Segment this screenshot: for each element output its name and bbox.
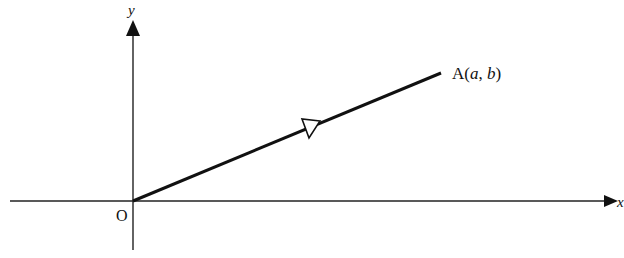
vector-oa — [133, 73, 441, 201]
point-a-label: A(a, b) — [452, 64, 501, 83]
vector-diagram: y x O A(a, b) — [0, 0, 624, 258]
y-axis-arrow-icon — [126, 20, 140, 36]
direction-arrow-icon — [302, 119, 320, 138]
diagram-canvas: y x O A(a, b) — [0, 0, 624, 258]
origin-label: O — [116, 207, 128, 224]
x-axis-label: x — [616, 194, 624, 210]
x-axis-arrow-icon — [604, 195, 618, 207]
y-axis-label: y — [126, 2, 135, 18]
